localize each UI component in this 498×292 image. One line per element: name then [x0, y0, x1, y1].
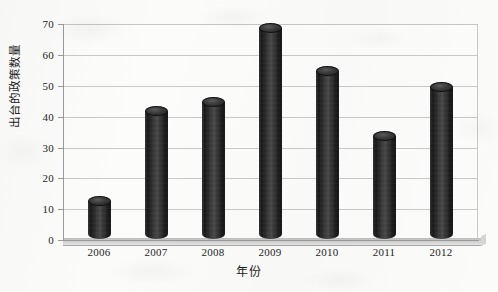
y-tick-label-30: 30	[14, 143, 54, 153]
bar-2012	[430, 82, 453, 239]
x-tick-label-2007: 2007	[126, 246, 186, 258]
x-tick-label-2008: 2008	[183, 246, 243, 258]
bar-body-2010	[316, 71, 339, 239]
y-tick-30: 30	[5, 143, 54, 153]
y-tick-mark-30	[58, 148, 64, 149]
y-tick-mark-40	[58, 117, 64, 118]
bar-cap-2006	[88, 196, 111, 206]
bar-cap-2010	[316, 66, 339, 76]
bar-2011	[373, 131, 396, 239]
y-tick-20: 20	[5, 173, 54, 183]
plot-area	[63, 24, 478, 240]
bar-body-2012	[430, 87, 453, 239]
y-tick-mark-70	[58, 24, 64, 25]
x-tick-label-2012: 2012	[411, 246, 471, 258]
bar-2010	[316, 66, 339, 239]
bar-texture-2011	[373, 136, 396, 239]
bar-cap-2008	[202, 97, 225, 107]
y-tick-mark-50	[58, 86, 64, 87]
x-tick-label-2010: 2010	[297, 246, 357, 258]
x-axis-line	[63, 240, 479, 241]
bar-2008	[202, 97, 225, 239]
bar-body-2008	[202, 102, 225, 239]
y-tick-70: 70	[5, 19, 54, 29]
bar-texture-2010	[316, 71, 339, 239]
bar-2009	[259, 23, 282, 239]
y-tick-label-20: 20	[14, 173, 54, 183]
bar-texture-2012	[430, 87, 453, 239]
bar-body-2007	[145, 111, 168, 239]
bar-2006	[88, 196, 111, 239]
y-tick-mark-0	[58, 240, 64, 241]
x-tick-label-2009: 2009	[240, 246, 300, 258]
y-tick-label-0: 0	[14, 235, 54, 245]
y-axis-title: 出台的政策数量	[6, 31, 22, 141]
bar-cap-2012	[430, 82, 453, 92]
bar-texture-2006	[88, 201, 111, 239]
y-tick-mark-10	[58, 209, 64, 210]
x-axis-title: 年份	[0, 262, 498, 280]
y-tick-label-10: 10	[14, 204, 54, 214]
bar-body-2011	[373, 136, 396, 239]
bar-texture-2007	[145, 111, 168, 239]
bar-cap-2009	[259, 23, 282, 33]
y-tick-0: 0	[5, 235, 54, 245]
y-tick-mark-60	[58, 55, 64, 56]
chart-screenshot: 出台的政策数量 70 60 50 40 30 20 10 0	[0, 0, 498, 292]
bar-2007	[145, 106, 168, 239]
bar-texture-2008	[202, 102, 225, 239]
bar-cap-2007	[145, 106, 168, 116]
bar-cap-2011	[373, 131, 396, 141]
y-tick-mark-20	[58, 178, 64, 179]
y-tick-label-70: 70	[14, 19, 54, 29]
bar-texture-2009	[259, 28, 282, 239]
x-tick-label-2011: 2011	[354, 246, 414, 258]
y-tick-10: 10	[5, 204, 54, 214]
bar-body-2006	[88, 201, 111, 239]
x-tick-label-2006: 2006	[69, 246, 129, 258]
bar-body-2009	[259, 28, 282, 239]
